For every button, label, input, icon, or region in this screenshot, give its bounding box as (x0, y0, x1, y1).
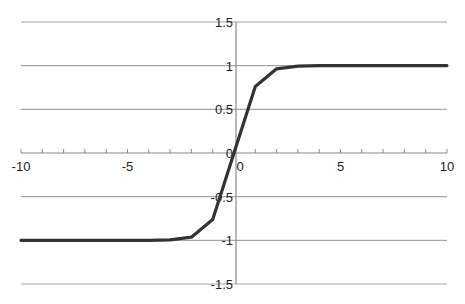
x-tick-label: 10 (440, 159, 454, 174)
x-tick-label: -10 (12, 159, 31, 174)
y-tick-label: -1 (221, 233, 233, 248)
y-tick-label: 1.5 (215, 15, 233, 30)
x-tick-label: 0 (236, 159, 243, 174)
line-chart: 1.510.50-0.5-1-1.5 -10-50510 (0, 0, 465, 304)
y-tick-label: 0.5 (215, 102, 233, 117)
y-tick-label: 1 (226, 59, 233, 74)
x-tick-label: 5 (337, 159, 344, 174)
x-tick-label: -5 (122, 159, 134, 174)
y-tick-label: -1.5 (211, 277, 233, 292)
